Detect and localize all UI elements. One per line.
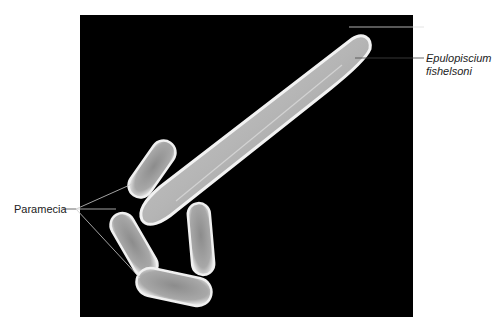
epulopiscium-cell bbox=[141, 36, 370, 225]
micrograph-cells bbox=[80, 15, 413, 317]
micrograph-photo bbox=[80, 15, 413, 317]
epulopiscium-label: Epulopiscium fishelsoni bbox=[426, 52, 491, 78]
epulopiscium-label-line2: fishelsoni bbox=[426, 65, 491, 78]
paramecium-cell-3 bbox=[187, 202, 215, 276]
epulopiscium-label-line1: Epulopiscium bbox=[426, 52, 491, 65]
paramecia-label: Paramecia bbox=[14, 203, 67, 216]
